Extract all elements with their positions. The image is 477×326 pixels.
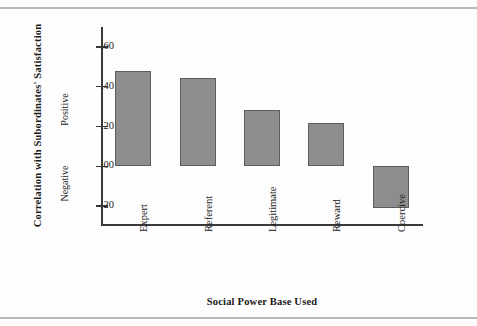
bar [115, 71, 151, 167]
x-category-label: Referent [203, 196, 214, 232]
top-divider-rule [0, 7, 477, 9]
x-category-label: Reward [331, 199, 342, 232]
bottom-divider-rule [0, 317, 477, 319]
y-tick-label: .40 [68, 80, 114, 91]
bar [308, 123, 344, 167]
y-axis-title: Correlation with Subordinates' Satisfact… [32, 21, 43, 231]
x-category-label: Coercive [396, 194, 407, 232]
x-category-label: Expert [138, 204, 149, 232]
x-axis-title: Social Power Base Used [101, 296, 423, 307]
bar [180, 78, 216, 167]
figure: Correlation with Subordinates' Satisfact… [0, 0, 477, 326]
x-category-label: Legitimate [267, 187, 278, 232]
bar [244, 110, 280, 167]
plot-area: .60.40.20.00-.20 [101, 27, 423, 226]
x-axis-line [101, 224, 423, 226]
y-tick-label: .20 [68, 120, 114, 131]
y-tick-label: -.20 [68, 199, 114, 210]
y-tick-label: .60 [68, 40, 114, 51]
y-tick-label: .00 [68, 159, 114, 170]
